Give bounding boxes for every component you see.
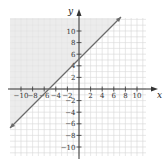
y-tick-label: −2: [65, 97, 75, 105]
y-tick-label: 8: [71, 39, 75, 47]
y-tick-label: 2: [71, 74, 75, 82]
graph: −10−8−6−4−2246810108642−2−4−6−8−10 x y: [0, 0, 165, 159]
x-tick-label: −10: [14, 92, 29, 100]
x-tick-label: 2: [88, 92, 92, 100]
y-axis-arrow-icon: [77, 9, 82, 16]
x-axis-label: x: [157, 90, 162, 100]
x-tick-label: 4: [100, 92, 105, 100]
y-axis-label: y: [67, 6, 74, 16]
x-tick-label: −4: [51, 92, 62, 100]
x-tick-label: 8: [123, 92, 127, 100]
y-tick-label: −4: [65, 109, 76, 117]
y-tick-label: −8: [65, 132, 75, 140]
y-tick-label: −6: [65, 120, 76, 128]
y-tick-label: −10: [61, 144, 76, 152]
y-tick-label: 10: [67, 28, 76, 36]
x-tick-label: −8: [27, 92, 37, 100]
x-tick-label: 10: [133, 92, 142, 100]
y-tick-label: 6: [71, 51, 76, 59]
x-tick-label: 6: [112, 92, 117, 100]
